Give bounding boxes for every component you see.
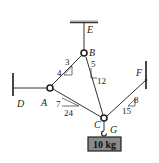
ring-c [101,115,107,121]
label-f: F [135,67,143,78]
ring-b [81,50,87,56]
label-c: C [94,119,101,130]
anchor-f [145,79,147,81]
label-a: A [40,97,48,108]
slope-cf-rise: 8 [134,95,139,105]
slope-bc-rise: 12 [97,76,106,86]
slope-cf-run: 15 [122,106,132,116]
mass-label: 10 kg [93,139,116,150]
label-b: B [89,47,95,58]
slope-ac-rise: 7 [56,99,61,109]
slope-ab-run: 3 [65,57,70,67]
label-e: E [86,24,93,35]
ring-a [47,85,53,91]
support-e [70,20,98,23]
slope-ab-rise: 4 [57,68,62,78]
hook-g [102,131,107,136]
cable-diagram: 10 kg E B D A C F G 3 4 5 12 7 24 8 15 [0,0,159,163]
triangle-ab [64,66,72,75]
label-d: D [16,98,25,109]
slope-ac-run: 24 [64,108,74,118]
slope-bc-run: 5 [91,59,96,69]
mass-box: 10 kg [88,137,121,151]
label-g: G [110,124,117,135]
